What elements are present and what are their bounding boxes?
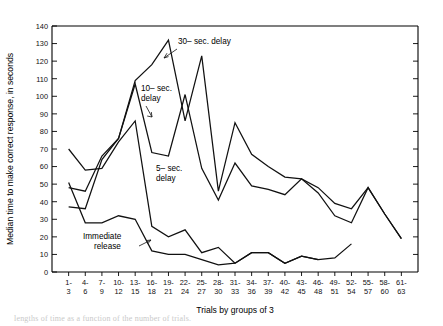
x-tick-label-top: 28- [213,278,224,287]
x-tick-label-top: 25- [196,278,207,287]
x-tick-label-bottom: 39 [264,287,272,296]
series-line [69,182,352,265]
x-tick-label-bottom: 6 [83,287,87,296]
y-tick-label: 0 [44,268,48,277]
x-tick-label-top: 31- [230,278,241,287]
annotation-10-sec-label-line2: delay [141,94,161,103]
x-tick-label-bottom: 27 [198,287,206,296]
caption-partial-text: lengths of time as a function of the num… [14,314,191,323]
y-tick-label: 140 [36,22,48,31]
x-tick-label-bottom: 24 [181,287,189,296]
x-tick-label-top: 37- [263,278,274,287]
annotation-immediate-release: Immediate release [83,232,151,251]
x-tick-label-bottom: 48 [314,287,322,296]
y-tick-label: 130 [36,39,48,48]
caption-strip: lengths of time as a function of the num… [0,312,443,326]
y-tick-labels: 0102030405060708090100110120130140 [36,22,48,277]
y-tick-label: 120 [36,57,48,66]
y-tick-label: 70 [40,145,48,154]
y-tick-label: 60 [40,162,48,171]
annotation-10-sec: 10– sec. delay [141,84,172,117]
x-tick-label-bottom: 60 [381,287,389,296]
y-tick-label: 10 [40,250,48,259]
x-tick-label-top: 52- [346,278,357,287]
y-tick-label: 110 [36,75,48,84]
x-tick-label-bottom: 30 [214,287,222,296]
annotation-10-sec-leader [146,106,152,117]
x-tick-label-bottom: 54 [347,287,355,296]
x-tick-label-top: 55- [363,278,374,287]
y-tick-label: 80 [40,127,48,136]
x-tick-label-bottom: 63 [397,287,405,296]
x-tick-label-top: 46- [313,278,324,287]
x-tick-label-top: 19- [163,278,174,287]
x-tick-label-bottom: 42 [281,287,289,296]
x-tick-label-bottom: 21 [164,287,172,296]
x-tick-label-top: 43- [296,278,307,287]
y-tick-label: 50 [40,180,48,189]
x-tick-label-bottom: 51 [331,287,339,296]
annotation-5-sec-label-line2: delay [156,174,176,183]
x-tick-label-bottom: 3 [67,287,71,296]
x-tick-label-top: 1- [65,278,72,287]
x-tick-label-top: 61- [396,278,407,287]
y-tick-label: 40 [40,198,48,207]
annotation-5-sec-label-line1: 5– sec. [156,164,182,173]
x-tick-label-top: 58- [379,278,390,287]
annotation-30-sec-label: 30– sec. delay [178,37,232,46]
x-tick-label-bottom: 57 [364,287,372,296]
x-tick-labels: 1-34-67-910-1213-1516-1819-2122-2425-272… [65,278,407,296]
x-tick-label-bottom: 36 [248,287,256,296]
y-axis-title: Median time to make correct response, in… [5,53,15,245]
x-tick-label-top: 49- [329,278,340,287]
line-chart: 0102030405060708090100110120130140 1-34-… [0,0,443,326]
x-tick-label-top: 7- [99,278,106,287]
x-tick-label-bottom: 12 [114,287,122,296]
x-tick-label-bottom: 9 [100,287,104,296]
annotation-immediate-label-line2: release [94,242,121,251]
x-tick-label-top: 10- [113,278,124,287]
y-tick-label: 90 [40,110,48,119]
x-tick-label-bottom: 15 [131,287,139,296]
x-tick-label-bottom: 33 [231,287,239,296]
x-tick-label-top: 34- [246,278,257,287]
x-tick-label-top: 40- [280,278,291,287]
x-tick-label-bottom: 45 [297,287,305,296]
annotation-30-sec: 30– sec. delay [164,37,232,58]
y-tick-label: 30 [40,215,48,224]
annotation-5-sec: 5– sec. delay [156,164,182,183]
x-tick-label-bottom: 18 [148,287,156,296]
x-tick-label-top: 16- [146,278,157,287]
x-tick-label-top: 4- [82,278,89,287]
y-tick-label: 100 [36,92,48,101]
figure-container: 0102030405060708090100110120130140 1-34-… [0,0,443,326]
x-tick-label-top: 22- [180,278,191,287]
annotation-immediate-label-line1: Immediate [83,232,122,241]
x-tick-label-top: 13- [130,278,141,287]
y-tick-label: 20 [40,233,48,242]
x-axis-ticks [69,272,402,276]
annotation-10-sec-label-line1: 10– sec. [141,84,172,93]
